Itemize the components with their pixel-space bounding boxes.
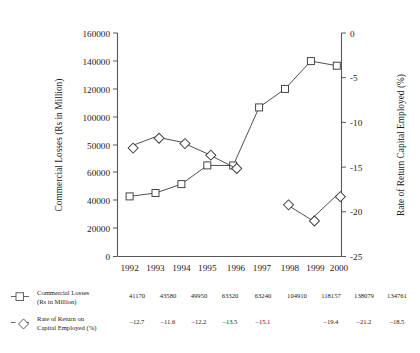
legend-marker-diamond (19, 319, 29, 329)
chart-figure: 160000 140000 120000 100000 50000 60000 … (0, 0, 420, 353)
right-axis-title: Rate of Return Capital Employed (%) (396, 74, 407, 216)
legend-label-line2: (Rs in Million) (37, 298, 77, 306)
data-point-marker (333, 62, 340, 69)
left-tick-label: 140000 (82, 57, 110, 67)
data-point-marker (284, 200, 294, 210)
right-tick-label: -5 (350, 73, 358, 83)
x-tick-label: 1997 (253, 263, 272, 273)
rate-of-return-line-segment-1 (130, 137, 234, 167)
left-tick-label: 60000 (87, 168, 110, 178)
series-rate-of-return (128, 133, 345, 226)
legend-row-rate-of-return: Rate of Return on Capital Employed (%) –… (11, 315, 405, 331)
left-tick-label: 0 (105, 252, 110, 262)
data-point-marker (152, 190, 159, 197)
left-axis-ticks (113, 33, 118, 257)
legend-value: –12.2 (191, 318, 207, 325)
legend-value: –19.4 (323, 318, 340, 325)
commercial-losses-line (130, 61, 337, 196)
data-point-marker (335, 192, 345, 202)
x-tick-label: 1999 (306, 263, 325, 273)
legend-value: –21.2 (356, 318, 372, 325)
x-tick-label: 1998 (281, 263, 300, 273)
left-tick-label: 50000 (87, 141, 110, 151)
legend-value: 104910 (287, 292, 307, 299)
x-tick-label: 1994 (172, 263, 191, 273)
legend-marker-square (16, 293, 24, 301)
right-tick-label: -15 (350, 163, 363, 173)
left-tick-label: 160000 (82, 29, 110, 39)
legend-value: 43580 (160, 292, 177, 299)
x-tick-label: 1992 (120, 263, 139, 273)
left-tick-label: 40000 (87, 196, 110, 206)
right-axis-ticks (342, 33, 347, 257)
legend-value: 118157 (321, 292, 341, 299)
legend-value: 138079 (354, 292, 374, 299)
data-point-marker (307, 58, 314, 65)
left-axis-title: Commercial Losses (Rs in Million) (54, 79, 65, 212)
left-axis-tick-labels: 160000 140000 120000 100000 50000 60000 … (82, 29, 110, 263)
legend-value: 134761 (387, 292, 407, 299)
data-point-marker (256, 104, 263, 111)
series-commercial-losses (126, 58, 340, 200)
right-tick-label: -20 (350, 207, 363, 217)
legend-value: –18.5 (389, 318, 406, 325)
data-point-marker (178, 181, 185, 188)
right-tick-label: -25 (350, 252, 363, 262)
legend-value: 41170 (129, 292, 146, 299)
right-tick-label: -10 (350, 118, 363, 128)
rate-of-return-line-segment-2 (285, 195, 337, 219)
data-point-marker (204, 162, 211, 169)
legend-value: –11.6 (160, 318, 176, 325)
dual-axis-line-chart: 160000 140000 120000 100000 50000 60000 … (0, 0, 420, 353)
data-point-marker (126, 193, 133, 200)
legend-value: 63240 (255, 292, 272, 299)
legend-label-line1: Rate of Return on (37, 315, 85, 322)
x-tick-label: 1996 (227, 263, 246, 273)
right-axis-tick-labels: 0 -5 -10 -15 -20 -25 (350, 29, 363, 263)
data-point-marker (180, 139, 190, 149)
legend-value: –13.5 (222, 318, 239, 325)
data-point-marker (309, 216, 319, 226)
left-tick-label: 100000 (82, 113, 110, 123)
x-tick-label: 1995 (198, 263, 217, 273)
right-tick-label: 0 (350, 29, 355, 39)
legend-row-commercial-losses: Commercial Losses (Rs in Million) 41170 … (11, 289, 407, 305)
x-tick-label: 2000 (330, 263, 349, 273)
x-axis-tick-labels: 1992 1993 1994 1995 1996 1997 1998 1999 … (120, 263, 348, 273)
legend-value: 49950 (191, 292, 208, 299)
legend-value: –15.1 (255, 318, 271, 325)
legend-value: –12.7 (129, 318, 146, 325)
data-point-marker (206, 150, 216, 160)
data-point-marker (128, 143, 138, 153)
x-tick-label: 1993 (146, 263, 165, 273)
left-tick-label: 120000 (82, 85, 110, 95)
left-tick-label: 20000 (87, 224, 110, 234)
legend-label-line2: Capital Employed (%) (37, 324, 96, 332)
legend-label-line1: Commercial Losses (37, 289, 90, 296)
legend-value: 63320 (222, 292, 239, 299)
data-point-marker (282, 85, 289, 92)
data-point-marker (154, 133, 164, 143)
